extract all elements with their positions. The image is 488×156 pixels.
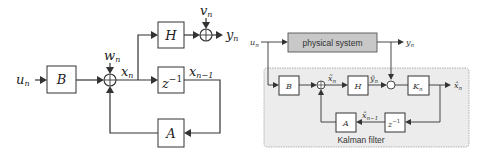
v-n-label: vn (200, 3, 213, 19)
block-a-label: A (342, 119, 349, 128)
y-n-label: yn (405, 38, 415, 48)
arrowhead-icon (282, 39, 288, 45)
arrowhead-icon (106, 67, 114, 74)
comparator-junction-icon (387, 81, 395, 89)
summing-junction-icon (317, 81, 325, 89)
u-n-label: un (250, 38, 259, 48)
arrowhead-icon (202, 22, 210, 29)
y-n-label: yn (225, 27, 239, 43)
arrowhead-icon (40, 76, 47, 84)
arrowhead-icon (216, 31, 223, 39)
kalman-filter-diagram: Kalman filter un physical system yn B (250, 33, 469, 147)
u-n-label: un (16, 72, 30, 88)
arrowhead-icon (106, 86, 114, 93)
arrowhead-icon (151, 31, 158, 39)
w-n-label: wn (104, 48, 120, 64)
arrowhead-icon (398, 39, 404, 45)
block-a-label: A (165, 126, 175, 141)
kalman-filter-label: Kalman filter (337, 135, 384, 145)
block-h-label: H (164, 28, 177, 43)
a-to-sum-line (110, 92, 158, 133)
physical-system-label: physical system (303, 38, 363, 48)
arrowhead-icon (193, 31, 200, 39)
arrowhead-icon (151, 76, 158, 84)
summing-junction-icon (200, 29, 212, 41)
state-space-diagram: un B wn xn H (16, 3, 239, 147)
x-n-minus-1-label: xn−1 (189, 64, 213, 80)
feedback-line (184, 80, 220, 133)
arrowhead-icon (184, 129, 191, 137)
x-n-label: xn (121, 64, 134, 80)
arrowhead-icon (97, 76, 104, 84)
figure: un B wn xn H (0, 0, 488, 156)
block-b-label: B (285, 82, 292, 91)
block-h-label: H (354, 82, 363, 91)
branch-to-h-line (138, 35, 152, 80)
block-b-label: B (56, 72, 67, 87)
summing-junction-icon (104, 74, 116, 86)
